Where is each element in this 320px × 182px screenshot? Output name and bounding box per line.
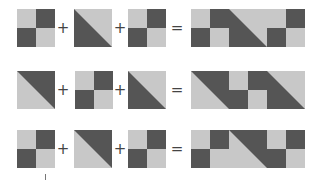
plus-sign: + [56, 21, 70, 36]
row1-tile2-diagonal [74, 9, 112, 47]
row3-tile2-diagonal [74, 130, 112, 168]
tick-mark [45, 174, 46, 180]
row3-tile1-checker [17, 130, 55, 168]
row3-tile3-checker [128, 130, 166, 168]
row2-tile3-diagonal [128, 71, 166, 109]
row1-tile3-checker [128, 9, 166, 47]
equals-sign: = [170, 21, 184, 36]
equation-row-2: + + = [0, 71, 320, 111]
plus-sign: + [56, 142, 70, 157]
plus-sign: + [113, 142, 127, 157]
equals-sign: = [170, 83, 184, 98]
row2-tile1-diagonal [17, 71, 55, 109]
row2-result-strip [191, 71, 305, 109]
equals-sign: = [170, 142, 184, 157]
plus-sign: + [56, 83, 70, 98]
row1-tile1-checker [17, 9, 55, 47]
row3-result-strip [191, 130, 305, 168]
equation-row-3: + + = [0, 130, 320, 170]
row1-result-strip [191, 9, 305, 47]
equation-row-1: + + = [0, 9, 320, 49]
plus-sign: + [113, 21, 127, 36]
plus-sign: + [113, 83, 127, 98]
row2-tile2-checker [75, 71, 113, 109]
